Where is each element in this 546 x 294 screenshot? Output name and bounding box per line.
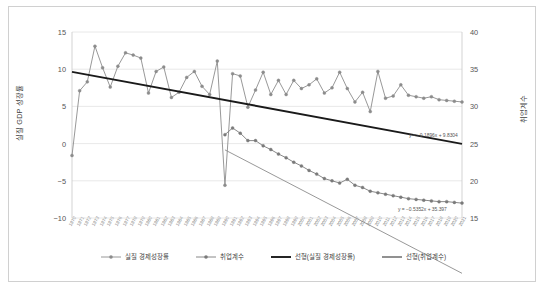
legend-swatch — [195, 253, 217, 261]
legend-item[interactable]: 실질 경제성장률 — [100, 252, 169, 261]
legend-item[interactable]: 선형(취업계수) — [381, 252, 446, 261]
trendline-equation-gdp: y = −0.1896x + 9.8304 — [409, 133, 458, 138]
trendline-equation-employment: y = −0.5352x + 35.397 — [398, 207, 447, 212]
chart-legend: 실질 경제성장률취업계수선형(실질 경제성장률)선형(취업계수) — [0, 252, 546, 261]
chart-root: 실질 GDP 성장률 취업계수 151050−5−10 403530252015… — [0, 0, 546, 294]
legend-swatch — [100, 253, 122, 261]
legend-item[interactable]: 선형(실질 경제성장률) — [270, 252, 355, 261]
plot-area — [0, 0, 546, 294]
legend-label: 실질 경제성장률 — [125, 252, 169, 261]
legend-swatch — [270, 253, 292, 261]
legend-label: 선형(취업계수) — [406, 252, 446, 261]
legend-swatch — [381, 253, 403, 261]
legend-label: 취업계수 — [220, 252, 244, 261]
legend-label: 선형(실질 경제성장률) — [295, 252, 355, 261]
legend-item[interactable]: 취업계수 — [195, 252, 244, 261]
